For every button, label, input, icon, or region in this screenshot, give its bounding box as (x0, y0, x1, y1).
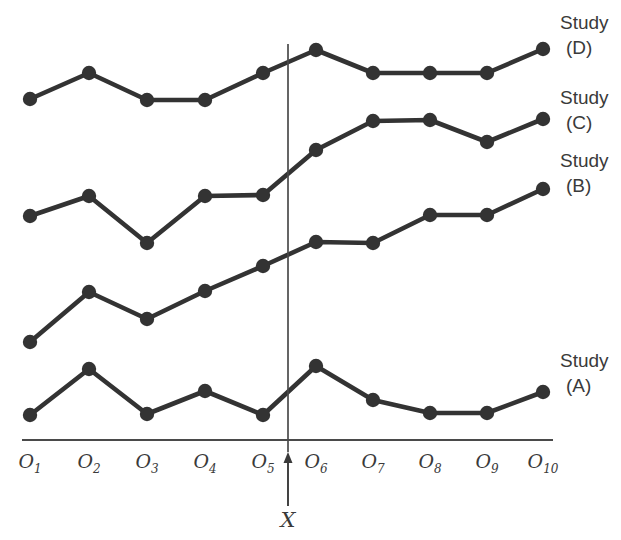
data-point (82, 285, 96, 299)
data-point (256, 188, 270, 202)
data-point (23, 92, 37, 106)
chart-canvas: O1O2O3O4O5O6O7O8O9O10 Study(D)Study(C)St… (0, 0, 621, 540)
data-point (536, 112, 550, 126)
x-tick-label-O7: O7 (361, 450, 384, 476)
x-tick-label-O3: O3 (135, 450, 158, 476)
data-point (480, 406, 494, 420)
series-label-key: (A) (560, 373, 609, 398)
data-point (480, 66, 494, 80)
x-tick-label-O2: O2 (77, 450, 100, 476)
up-arrow-head-icon (284, 452, 293, 463)
data-point (256, 259, 270, 273)
data-point (423, 66, 437, 80)
x-tick-label-O8: O8 (418, 450, 441, 476)
x-tick-label-O5: O5 (251, 450, 274, 476)
data-point (536, 385, 550, 399)
x-tick-label-O9: O9 (475, 450, 498, 476)
data-point (309, 143, 323, 157)
x-tick-label-O1: O1 (18, 450, 41, 476)
series-label-word: Study (560, 148, 609, 173)
data-point (198, 93, 212, 107)
series-label-key: (D) (560, 35, 609, 60)
data-point (198, 284, 212, 298)
data-point (366, 236, 380, 250)
series-group (23, 42, 550, 422)
series-label-key: (B) (560, 173, 609, 198)
x-tick-label-O10: O10 (528, 450, 559, 476)
data-point (309, 359, 323, 373)
series-label-b: Study(B) (560, 148, 609, 198)
data-point (309, 235, 323, 249)
data-point (23, 209, 37, 223)
data-point (366, 66, 380, 80)
data-point (366, 393, 380, 407)
data-point (140, 407, 154, 421)
intervention-marker-label: X (281, 508, 296, 532)
data-point (140, 93, 154, 107)
x-tick-label-O6: O6 (304, 450, 327, 476)
series-line-2 (30, 119, 543, 243)
data-point (23, 408, 37, 422)
series-line-4 (30, 366, 543, 415)
series-label-key: (C) (560, 110, 609, 135)
data-point (82, 362, 96, 376)
series-line-1 (30, 49, 543, 100)
data-point (23, 335, 37, 349)
data-point (309, 43, 323, 57)
data-point (82, 66, 96, 80)
series-label-c: Study(C) (560, 85, 609, 135)
data-point (256, 408, 270, 422)
series-label-word: Study (560, 10, 609, 35)
data-point (198, 384, 212, 398)
data-point (536, 182, 550, 196)
data-point (82, 189, 96, 203)
data-point (480, 208, 494, 222)
series-label-word: Study (560, 348, 609, 373)
data-point (198, 189, 212, 203)
data-point (480, 135, 494, 149)
data-point (423, 113, 437, 127)
series-label-a: Study(A) (560, 348, 609, 398)
intervention-marker-group (284, 44, 293, 506)
series-label-word: Study (560, 85, 609, 110)
data-point (140, 312, 154, 326)
data-point (256, 66, 270, 80)
data-point (366, 114, 380, 128)
data-point (140, 236, 154, 250)
series-label-d: Study(D) (560, 10, 609, 60)
data-point (536, 42, 550, 56)
data-point (423, 406, 437, 420)
data-point (423, 208, 437, 222)
x-tick-label-O4: O4 (193, 450, 216, 476)
